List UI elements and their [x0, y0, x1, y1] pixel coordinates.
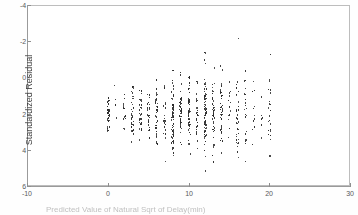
x-axis-title: Predicted Value of Natural Sqrt of Delay…: [46, 205, 205, 214]
residual-scatter-figure: 6420-2-4-100102030 Standardized Residual…: [0, 0, 358, 215]
y-axis-title: Standardized Residual: [24, 20, 34, 180]
scatter-points-layer: [0, 0, 358, 215]
